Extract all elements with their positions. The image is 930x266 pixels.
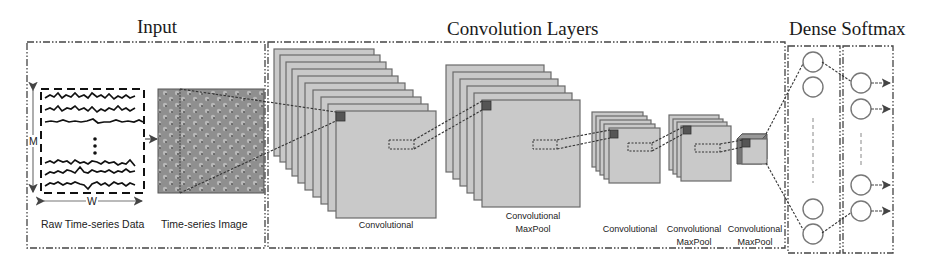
conv-5-label-line1: Convolutional <box>728 224 783 234</box>
softmax-layer <box>851 73 890 221</box>
softmax-neuron <box>851 73 871 93</box>
pooling-window <box>695 144 720 152</box>
time-series-image <box>158 89 264 193</box>
kernel-square <box>336 112 345 121</box>
time-series-image-label: Time-series Image <box>161 218 248 230</box>
conv-4-label-line1: Convolutional <box>667 224 722 234</box>
kernel-square <box>683 126 691 134</box>
dense-neuron <box>803 52 823 72</box>
connection-line <box>822 212 852 233</box>
dense-layer <box>803 52 823 244</box>
conv-5-label-line2: MaxPool <box>737 237 772 247</box>
conv-1-front-map <box>336 111 436 218</box>
kernel-square <box>742 139 750 147</box>
m-axis-label: M <box>29 135 38 147</box>
conv-stack-4 <box>669 115 731 181</box>
dense-neuron <box>803 224 823 244</box>
softmax-neuron <box>851 175 871 195</box>
conv-1-label: Convolutional <box>359 220 414 230</box>
conv-2-front-map <box>482 100 580 207</box>
raw-time-series-label: Raw Time-series Data <box>41 218 144 230</box>
dense-softmax-section-title: Dense Softmax <box>789 18 906 39</box>
softmax-neuron <box>851 201 871 221</box>
conv-3-label: Convolutional <box>603 224 658 234</box>
convolution-section-title: Convolution Layers <box>447 18 598 39</box>
ellipsis-dot <box>93 137 97 141</box>
conv-4-label-line2: MaxPool <box>676 237 711 247</box>
raw-data-frame <box>41 89 144 193</box>
dense-neuron <box>803 77 823 97</box>
conv-stack-3 <box>592 112 660 183</box>
softmax-neuron <box>851 99 871 119</box>
w-axis-label: W <box>87 195 97 207</box>
ellipsis-dot <box>93 144 97 148</box>
ellipsis-dot <box>93 151 97 155</box>
connection-line <box>822 62 852 82</box>
conv-stack-2 <box>446 65 580 207</box>
conv-stack-1 <box>274 49 436 218</box>
conv-stack-5-cube <box>737 134 767 164</box>
dense-neuron <box>803 199 823 219</box>
pooling-window <box>533 140 557 149</box>
kernel-square <box>482 101 491 110</box>
conv-2-label-line2: MaxPool <box>515 224 550 234</box>
pooling-window <box>628 143 652 151</box>
kernel-square <box>610 130 618 138</box>
raw-time-series-panel: M W <box>29 89 144 207</box>
input-section-title: Input <box>137 16 178 37</box>
conv-2-label-line1: Convolutional <box>506 211 561 221</box>
pooling-window <box>389 140 414 149</box>
cnn-architecture-diagram: Input Convolution Layers Dense Softmax M… <box>0 0 930 266</box>
